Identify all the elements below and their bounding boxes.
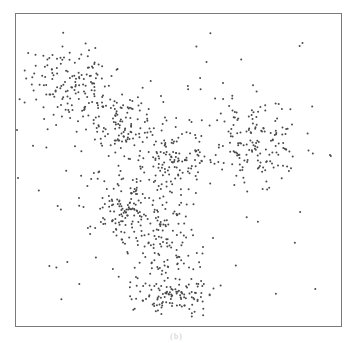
data-point bbox=[129, 286, 131, 288]
data-point bbox=[198, 141, 200, 143]
data-point bbox=[101, 65, 103, 67]
data-point bbox=[94, 95, 96, 97]
data-point bbox=[224, 121, 226, 123]
data-point bbox=[221, 169, 223, 171]
data-point bbox=[124, 232, 126, 234]
data-point bbox=[278, 143, 280, 145]
data-point bbox=[110, 144, 112, 146]
data-point bbox=[119, 224, 121, 226]
data-point bbox=[19, 98, 21, 100]
data-point bbox=[179, 279, 181, 281]
data-point bbox=[94, 47, 96, 49]
data-point bbox=[162, 293, 164, 295]
data-point bbox=[200, 296, 202, 298]
data-point bbox=[197, 149, 199, 151]
data-point bbox=[183, 235, 185, 237]
data-point bbox=[237, 142, 239, 144]
data-point bbox=[206, 61, 208, 63]
data-point bbox=[203, 283, 205, 285]
data-point bbox=[89, 226, 91, 228]
data-point bbox=[239, 142, 241, 144]
data-point bbox=[195, 150, 197, 152]
data-point bbox=[176, 234, 178, 236]
data-point bbox=[57, 106, 59, 108]
data-point bbox=[220, 112, 222, 114]
data-point bbox=[109, 210, 111, 212]
data-point bbox=[98, 124, 100, 126]
data-point bbox=[178, 268, 180, 270]
data-point bbox=[200, 292, 202, 294]
data-point bbox=[104, 223, 106, 225]
data-point bbox=[307, 133, 309, 135]
data-point bbox=[152, 204, 154, 206]
data-point bbox=[86, 96, 88, 98]
data-point bbox=[78, 283, 80, 285]
data-point bbox=[120, 190, 122, 192]
data-point bbox=[252, 122, 254, 124]
data-point bbox=[44, 76, 46, 78]
data-point bbox=[181, 306, 183, 308]
data-point bbox=[97, 74, 99, 76]
data-point bbox=[96, 102, 98, 104]
data-point bbox=[113, 211, 115, 213]
data-point bbox=[248, 129, 250, 131]
data-point bbox=[120, 170, 122, 172]
data-point bbox=[48, 265, 50, 267]
data-point bbox=[241, 169, 243, 171]
data-point bbox=[104, 219, 106, 221]
data-point bbox=[135, 298, 137, 300]
data-point bbox=[162, 204, 164, 206]
data-point bbox=[223, 162, 225, 164]
data-point bbox=[109, 99, 111, 101]
data-point bbox=[147, 218, 149, 220]
data-point bbox=[175, 278, 177, 280]
data-point bbox=[142, 252, 144, 254]
data-point bbox=[39, 84, 41, 86]
data-point bbox=[164, 208, 166, 210]
data-point bbox=[106, 188, 108, 190]
data-point bbox=[104, 86, 106, 88]
data-point bbox=[152, 199, 154, 201]
data-point bbox=[177, 160, 179, 162]
data-point bbox=[57, 205, 59, 207]
data-point bbox=[214, 98, 216, 100]
data-point bbox=[147, 242, 149, 244]
data-point bbox=[246, 154, 248, 156]
data-point bbox=[155, 310, 157, 312]
data-point bbox=[74, 145, 76, 147]
data-point bbox=[191, 229, 193, 231]
data-point bbox=[166, 151, 168, 153]
data-point bbox=[158, 163, 160, 165]
data-point bbox=[45, 94, 47, 96]
data-point bbox=[159, 289, 161, 291]
data-point bbox=[116, 102, 118, 104]
data-point bbox=[210, 161, 212, 163]
data-point bbox=[33, 89, 35, 91]
data-point bbox=[72, 109, 74, 111]
data-point bbox=[141, 235, 143, 237]
data-point bbox=[166, 291, 168, 293]
data-point bbox=[232, 135, 234, 137]
data-point bbox=[154, 252, 156, 254]
data-point bbox=[216, 119, 218, 121]
data-point bbox=[158, 155, 160, 157]
data-point bbox=[199, 266, 201, 268]
data-point bbox=[60, 63, 62, 65]
data-point bbox=[121, 215, 123, 217]
data-point bbox=[122, 242, 124, 244]
data-point bbox=[153, 244, 155, 246]
data-point bbox=[129, 281, 131, 283]
data-point bbox=[78, 72, 80, 74]
data-point bbox=[180, 194, 182, 196]
data-point bbox=[95, 257, 97, 259]
data-point bbox=[188, 284, 190, 286]
data-point bbox=[254, 128, 256, 130]
data-point bbox=[161, 273, 163, 275]
data-point bbox=[183, 223, 185, 225]
data-point bbox=[154, 235, 156, 237]
data-point bbox=[137, 212, 139, 214]
data-point bbox=[251, 109, 253, 111]
data-point bbox=[140, 180, 142, 182]
data-point bbox=[83, 78, 85, 80]
data-point bbox=[51, 72, 53, 74]
